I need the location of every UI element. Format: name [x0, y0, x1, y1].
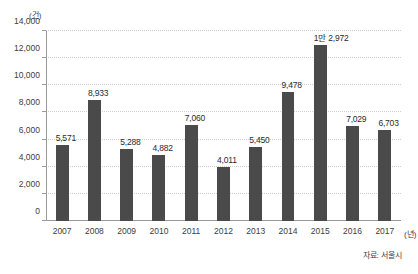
y-tick-label: 14,000	[14, 16, 40, 26]
x-tick-label: 2012	[214, 226, 233, 236]
bar-group[interactable]: 4,0112012	[207, 31, 239, 221]
bar[interactable]: 4,882	[152, 155, 165, 221]
bar-value-label: 5,288	[120, 137, 140, 147]
x-tick-label: 2008	[85, 226, 104, 236]
y-tick-label: 0	[35, 206, 40, 216]
bar[interactable]: 4,011	[217, 167, 230, 221]
x-tick-label: 2007	[53, 226, 72, 236]
bar-group[interactable]: 8,9332008	[78, 31, 110, 221]
x-tick-label: 2011	[182, 226, 200, 236]
bar-value-label: 9,478	[282, 80, 302, 90]
y-tick-label: 6,000	[19, 125, 40, 135]
bar-group[interactable]: 1만 2,9722015	[304, 31, 336, 221]
bar[interactable]: 7,029	[346, 126, 359, 221]
x-tick-label: 2013	[246, 226, 265, 236]
y-tick-label: 8,000	[19, 97, 40, 107]
bar-value-label: 7,029	[346, 114, 366, 124]
plot-area: 02,0004,0006,0008,00010,00012,00014,000 …	[46, 31, 401, 221]
x-tick-label: 2017	[375, 226, 394, 236]
bar[interactable]: 5,450	[249, 147, 262, 221]
y-tick-label: 2,000	[19, 179, 40, 189]
x-tick-label: 2010	[149, 226, 168, 236]
bar-group[interactable]: 5,4502013	[240, 31, 272, 221]
y-tick-label: 10,000	[14, 70, 40, 80]
bar[interactable]: 5,571	[56, 145, 69, 221]
bar-value-label: 5,450	[249, 135, 269, 145]
y-tick-label: 4,000	[19, 152, 40, 162]
x-tick-label: 2014	[279, 226, 298, 236]
x-axis-unit-label: (년)	[404, 228, 416, 239]
bar[interactable]: 6,703	[378, 130, 391, 221]
bar-group[interactable]: 5,5712007	[46, 31, 78, 221]
bar-group[interactable]: 5,2882009	[111, 31, 143, 221]
bar-value-label: 4,882	[152, 143, 172, 153]
bar-group[interactable]: 6,7032017	[369, 31, 401, 221]
bar-chart-figure: (건) 02,0004,0006,0008,00010,00012,00014,…	[0, 0, 418, 274]
bar-group[interactable]: 7,0602011	[175, 31, 207, 221]
bar[interactable]: 5,288	[120, 149, 133, 221]
x-tick-label: 2016	[343, 226, 362, 236]
bar-value-label: 6,703	[378, 118, 398, 128]
x-tick-label: 2015	[311, 226, 330, 236]
bar-group[interactable]: 4,8822010	[143, 31, 175, 221]
bar-value-label: 7,060	[185, 113, 205, 123]
bar-value-label: 4,011	[217, 155, 237, 165]
bar[interactable]: 8,933	[88, 100, 101, 221]
bar[interactable]: 7,060	[185, 125, 198, 221]
bar-group[interactable]: 7,0292016	[336, 31, 368, 221]
y-tick-label: 12,000	[14, 43, 40, 53]
bar-group[interactable]: 9,4782014	[272, 31, 304, 221]
bar[interactable]: 1만 2,972	[314, 45, 327, 221]
x-tick-label: 2009	[117, 226, 136, 236]
bar[interactable]: 9,478	[282, 92, 295, 221]
bar-value-label: 8,933	[88, 88, 108, 98]
bar-value-label: 5,571	[56, 133, 76, 143]
source-note: 자료: 서울시	[363, 249, 402, 260]
